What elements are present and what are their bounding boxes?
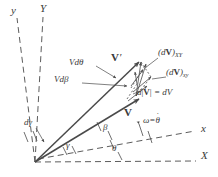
- Vdtheta-leader: [96, 66, 116, 78]
- component-label-d-magnitude-V: d|V| = dV: [137, 88, 172, 97]
- dgamma-leader: [36, 128, 44, 142]
- dV-xy-subscript: xy: [183, 72, 188, 78]
- vector-diagram-figure: y Y x X V′ V Vdθ Vdβ (dV)XY (dV)xy d|V| …: [0, 0, 218, 177]
- component-label-dV-xy: (dV)xy: [166, 68, 188, 77]
- axis-label-x: x: [201, 123, 206, 134]
- axis-x-line: [38, 131, 195, 159]
- vector-V-prime-mark: ′: [119, 51, 121, 63]
- omega-tick-2: [148, 131, 152, 143]
- vector-label-V: V: [124, 107, 132, 118]
- Vdbeta-leader: [82, 83, 127, 86]
- dV-XY-subscript: XY: [175, 52, 182, 58]
- component-label-Vdtheta: Vdθ: [69, 58, 83, 67]
- d-mag-bars: |V|: [142, 87, 152, 97]
- theta-tick-2: [118, 152, 122, 160]
- dV-xy-main: (dV): [166, 67, 183, 77]
- axis-label-y: y: [11, 5, 16, 16]
- vector-V-prime-glyph: V: [111, 51, 119, 63]
- dgamma-tick-2: [33, 131, 37, 141]
- dV-helper-dashed-4: [127, 84, 137, 99]
- angle-label-beta: β: [103, 123, 107, 132]
- axis-y-line: [17, 18, 35, 162]
- omega-tick-1: [139, 124, 143, 136]
- component-label-Vdbeta: Vdβ: [54, 75, 68, 84]
- angle-label-gamma: γ: [66, 141, 70, 150]
- component-leader-arrows: [36, 58, 166, 142]
- angle-label-d-gamma: dγ: [24, 118, 32, 127]
- d-mag-equals: = dV: [152, 87, 173, 97]
- axis-X-line: [35, 161, 196, 162]
- axis-label-X: X: [201, 150, 208, 161]
- beta-tick-2: [108, 131, 112, 140]
- component-label-dV-XY: (dV)XY: [158, 48, 182, 57]
- dV-XY-main: (dV): [158, 47, 175, 57]
- diagram-canvas: [0, 0, 218, 177]
- theta-dot-group: ·θ: [155, 116, 159, 125]
- dVXY-leader: [145, 58, 158, 68]
- angle-label-theta: θ: [112, 144, 116, 153]
- dVxy-leader: [152, 77, 166, 79]
- omega-theta-dot-label: ω=·θ: [143, 116, 160, 125]
- axis-label-Y: Y: [40, 3, 46, 14]
- dgamma-tick-1: [24, 132, 28, 142]
- vector-label-V-prime: V′: [111, 52, 121, 63]
- axis-Y-line: [35, 17, 43, 162]
